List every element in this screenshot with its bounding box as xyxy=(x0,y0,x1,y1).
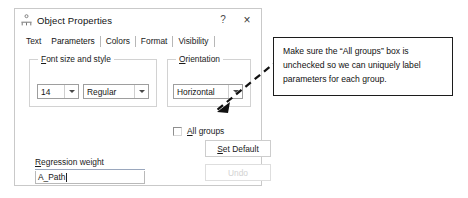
tab-parameters[interactable]: Parameters xyxy=(46,36,99,46)
font-size-and-style-group: Font size and style xyxy=(29,59,157,107)
tab-separator xyxy=(214,36,215,47)
set-default-label: Set Default xyxy=(217,144,258,154)
tab-colors[interactable]: Colors xyxy=(101,36,135,46)
regression-weight-input[interactable]: A_Path xyxy=(35,171,145,184)
annotation-callout: Make sure the “All groups” box is unchec… xyxy=(273,37,453,96)
regression-weight-value: A_Path xyxy=(38,172,65,182)
tab-visibility[interactable]: Visibility xyxy=(173,36,213,46)
tab-strip: Text Parameters Colors Format Visibility xyxy=(21,33,257,49)
font-style-value: Regular xyxy=(84,87,134,97)
chevron-down-icon[interactable] xyxy=(134,85,148,98)
path-diagram-icon xyxy=(20,14,33,27)
font-size-combobox[interactable]: 14 xyxy=(37,84,79,99)
regression-weight-label-rest: egression weight xyxy=(41,157,104,167)
font-group-legend: Font size and style xyxy=(38,54,114,64)
close-button[interactable]: × xyxy=(235,11,259,29)
chevron-down-icon[interactable] xyxy=(64,85,78,98)
all-groups-checkbox[interactable] xyxy=(173,127,182,136)
help-button[interactable]: ? xyxy=(211,11,235,29)
all-groups-label: All groups xyxy=(187,126,224,136)
set-default-label-rest: et Default xyxy=(223,144,259,154)
dialog-titlebar[interactable]: Object Properties ? × xyxy=(15,9,261,31)
font-style-combobox[interactable]: Regular xyxy=(83,84,149,99)
all-groups-label-rest: ll groups xyxy=(193,126,225,136)
regression-weight-underline xyxy=(35,169,145,170)
tab-text[interactable]: Text xyxy=(21,36,46,46)
dialog-title: Object Properties xyxy=(37,15,112,26)
regression-weight-label: Regression weight xyxy=(35,157,104,167)
all-groups-checkbox-row[interactable]: All groups xyxy=(173,126,224,136)
undo-button: Undo xyxy=(205,164,271,181)
font-group-legend-rest: ont size and style xyxy=(46,54,111,64)
font-size-value: 14 xyxy=(38,87,64,97)
tab-format[interactable]: Format xyxy=(136,36,173,46)
set-default-button[interactable]: Set Default xyxy=(205,140,271,157)
text-caret xyxy=(66,173,67,182)
